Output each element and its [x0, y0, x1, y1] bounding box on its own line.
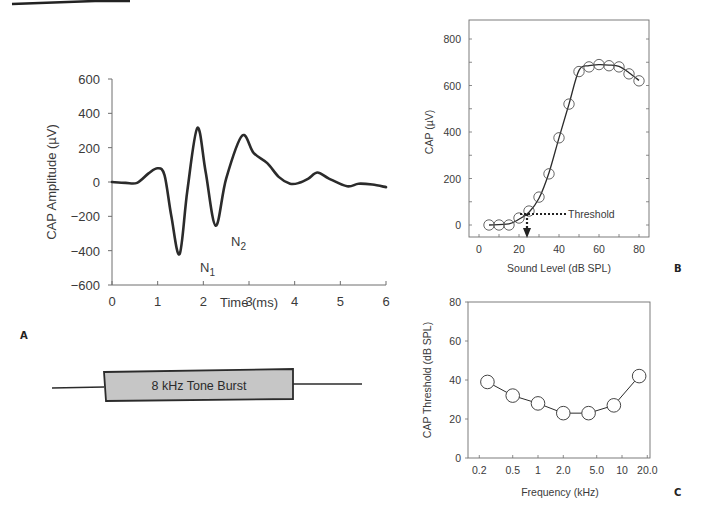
svg-text:5.0: 5.0: [589, 464, 604, 476]
n2-label: N2: [231, 234, 246, 252]
figure-canvas: 6004002000−200−400−6000123456 Time (ms) …: [0, 0, 701, 514]
page-edge-stroke: [12, 1, 130, 4]
svg-text:6: 6: [382, 294, 389, 309]
svg-text:2.0: 2.0: [556, 464, 571, 476]
panel-a-cap-waveform: [112, 128, 386, 255]
svg-text:−600: −600: [71, 278, 100, 293]
svg-text:1: 1: [154, 294, 161, 309]
panel-c-y-axis-label: CAP Threshold (dB SPL): [421, 322, 433, 438]
panel-b-fit-curve: [489, 65, 639, 225]
svg-text:20: 20: [513, 243, 525, 255]
svg-text:40: 40: [553, 243, 565, 255]
svg-text:800: 800: [443, 33, 461, 45]
svg-text:400: 400: [78, 106, 100, 121]
svg-text:−200: −200: [71, 209, 100, 224]
threshold-label: Threshold: [568, 208, 615, 220]
svg-text:200: 200: [78, 141, 100, 156]
svg-text:200: 200: [443, 173, 461, 185]
svg-text:4: 4: [291, 294, 298, 309]
svg-text:60: 60: [449, 335, 461, 347]
panel-a: 6004002000−200−400−6000123456 Time (ms) …: [20, 72, 390, 341]
svg-text:0: 0: [93, 175, 100, 190]
panel-a-x-axis-label: Time (ms): [220, 295, 278, 310]
svg-text:600: 600: [78, 72, 100, 87]
svg-text:1: 1: [535, 464, 541, 476]
panel-c: 0204060800.20.512.05.01020.0 Frequency (…: [421, 296, 681, 498]
svg-text:40: 40: [449, 374, 461, 386]
svg-text:20: 20: [449, 413, 461, 425]
svg-text:0.2: 0.2: [472, 464, 487, 476]
panel-b-data-markers: [484, 59, 644, 230]
panel-c-x-axis-label: Frequency (kHz): [521, 486, 599, 498]
svg-text:20.0: 20.0: [637, 464, 658, 476]
panel-c-tick-labels: 0204060800.20.512.05.01020.0: [449, 296, 657, 476]
svg-text:0: 0: [476, 243, 482, 255]
tone-burst-stimulus: 8 kHz Tone Burst: [52, 369, 362, 401]
panel-b: 0200400600800020406080 Threshold Sound L…: [423, 20, 682, 274]
svg-text:0: 0: [108, 294, 115, 309]
panel-b-y-axis-label: CAP (µV): [423, 110, 435, 154]
n1-label: N1: [200, 260, 215, 278]
panel-c-data-markers: [481, 369, 646, 420]
panel-letter-b: B: [674, 263, 682, 274]
svg-text:−400: −400: [71, 244, 100, 259]
svg-text:600: 600: [443, 80, 461, 92]
stimulus-baseline-left: [52, 387, 104, 388]
svg-text:0.5: 0.5: [505, 464, 520, 476]
svg-text:80: 80: [633, 243, 645, 255]
panel-b-x-axis-label: Sound Level (dB SPL): [507, 262, 611, 274]
svg-text:400: 400: [443, 126, 461, 138]
panel-letter-a: A: [20, 330, 28, 341]
tone-burst-label: 8 kHz Tone Burst: [152, 379, 247, 393]
svg-text:2: 2: [200, 294, 207, 309]
svg-text:10: 10: [616, 464, 628, 476]
threshold-arrow-icon: [523, 228, 531, 238]
panel-b-tick-labels: 0200400600800020406080: [443, 33, 645, 255]
svg-text:80: 80: [449, 296, 461, 308]
svg-text:0: 0: [455, 452, 461, 464]
panel-a-axes: [108, 79, 386, 285]
panel-a-tick-labels: 6004002000−200−400−6000123456: [71, 72, 390, 309]
svg-text:60: 60: [593, 243, 605, 255]
svg-text:5: 5: [337, 294, 344, 309]
panel-letter-c: C: [674, 487, 681, 498]
panel-a-y-axis-label: CAP Amplitude (µV): [44, 124, 59, 240]
panel-b-axes: [469, 20, 649, 237]
svg-text:0: 0: [455, 219, 461, 231]
